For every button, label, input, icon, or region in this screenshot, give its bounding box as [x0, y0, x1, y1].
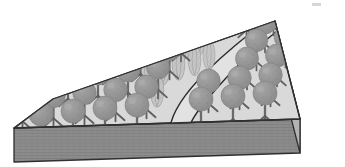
figure-container: Self-assembled monolayer on substrate wi…: [0, 0, 345, 167]
scan-artifact-mark: [312, 3, 321, 6]
molecule-row-0: [90, 0, 319, 41]
schematic-illustration: [0, 0, 345, 167]
